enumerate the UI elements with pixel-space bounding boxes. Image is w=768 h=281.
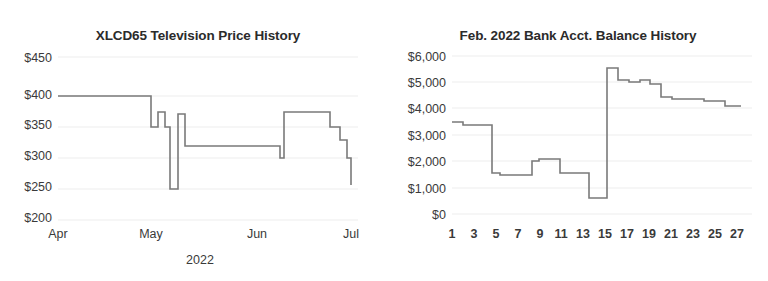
x-tick-label-27: 27: [724, 228, 750, 241]
chart-panel-television-price: XLCD65 Television Price History $450 $40…: [0, 0, 384, 281]
x-tick-label-jul: Jul: [327, 228, 375, 241]
chart-panel-bank-balance: Feb. 2022 Bank Acct. Balance History $6,…: [384, 0, 768, 281]
x-tick-label-apr: Apr: [34, 228, 82, 241]
series-line-bank-balance: [452, 68, 741, 198]
gridlines: [452, 56, 752, 214]
x-tick-label-jun: Jun: [233, 228, 281, 241]
x-tick-label-may: May: [127, 228, 175, 241]
x-axis-title-year: 2022: [160, 254, 240, 267]
screenshot-page: XLCD65 Television Price History $450 $40…: [0, 0, 768, 281]
gridlines: [58, 57, 358, 220]
series-line-television-price: [58, 96, 351, 189]
